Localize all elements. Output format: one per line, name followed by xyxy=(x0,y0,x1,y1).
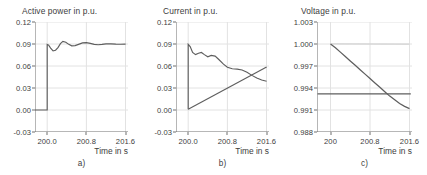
panel-a-gridlines xyxy=(35,22,128,132)
panel-a-curve-active-power xyxy=(35,41,126,110)
panel-b-xtick-label: 200.8 xyxy=(218,137,237,146)
panel-b-current: Current in p.u. xyxy=(141,0,283,175)
panel-a-xtick-mark xyxy=(86,132,87,135)
panel-c-caption: c) xyxy=(361,159,368,168)
panel-a-ytick-label: 0.03 xyxy=(16,84,35,93)
panel-b-xtick-mark xyxy=(266,132,267,135)
panel-c-voltage: Voltage in p.u. xyxy=(283,0,425,175)
panel-c-ytick-label: 1.000 xyxy=(294,40,317,49)
panel-c-plot-area: 1.003 1.000 0.997 0.994 0.991 0.988 200 … xyxy=(317,22,412,132)
panel-a-caption: a) xyxy=(78,159,85,168)
panel-c-axes xyxy=(317,22,412,132)
panel-b-xtick-label: 201.6 xyxy=(257,137,276,146)
panel-b-plot-area: 0.12 0.09 0.06 0.03 0.00 -0.03 200.0 200… xyxy=(176,22,269,132)
panel-c-xtick-label: 200 xyxy=(324,137,337,146)
panel-a-svg xyxy=(35,22,128,132)
panel-a-ytick-label: 0.12 xyxy=(16,18,35,27)
panel-c-svg xyxy=(317,22,412,132)
panel-b-ytick-label: 0.06 xyxy=(157,62,176,71)
figure-three-panel-plot: Active power in p.u. xyxy=(0,0,427,175)
panel-a-xtick-label: 200.8 xyxy=(77,137,96,146)
panel-a-ytick-label: 0.09 xyxy=(16,40,35,49)
panel-c-ytick-label: 0.988 xyxy=(294,128,317,137)
panel-a-ytick-label: -0.03 xyxy=(13,128,35,137)
panel-c-ytick-label: 0.997 xyxy=(294,62,317,71)
panel-c-ytick-label: 0.991 xyxy=(294,106,317,115)
panel-c-ytick-label: 0.994 xyxy=(294,84,317,93)
panel-b-ytick-label: 0.09 xyxy=(157,40,176,49)
panel-b-xaxis-label: Time in s xyxy=(235,146,269,156)
panel-a-ytick-label: 0.06 xyxy=(16,62,35,71)
panel-b-ytick-label: 0.03 xyxy=(157,84,176,93)
panel-a-ytick-label: 0.00 xyxy=(16,106,35,115)
panel-b-ytick-label: 0.12 xyxy=(157,18,176,27)
panel-c-title: Voltage in p.u. xyxy=(301,6,356,16)
panel-b-ytick-label: 0.00 xyxy=(157,106,176,115)
panel-a-xtick-label: 201.6 xyxy=(116,137,135,146)
panel-a-xtick-mark xyxy=(47,132,48,135)
panel-b-caption: b) xyxy=(219,159,226,168)
panel-c-xtick-mark xyxy=(330,132,331,135)
panel-b-ytick-label: -0.03 xyxy=(154,128,176,137)
panel-c-xtick-mark xyxy=(409,132,410,135)
panel-c-xtick-label: 200.8 xyxy=(360,137,379,146)
panel-c-xtick-mark xyxy=(370,132,371,135)
panel-a-xtick-mark xyxy=(125,132,126,135)
panel-b-title: Current in p.u. xyxy=(163,6,218,16)
panel-b-svg xyxy=(176,22,269,132)
panel-c-xaxis-label: Time in s xyxy=(378,146,412,156)
panel-c-gridlines xyxy=(317,22,412,132)
panel-a-axes xyxy=(35,22,128,132)
panel-a-active-power: Active power in p.u. xyxy=(0,0,142,175)
panel-a-xtick-label: 200.0 xyxy=(38,137,57,146)
panel-c-ytick-label: 1.003 xyxy=(294,18,317,27)
panel-b-xtick-mark xyxy=(227,132,228,135)
panel-a-title: Active power in p.u. xyxy=(22,6,97,16)
panel-a-plot-area: 0.12 0.09 0.06 0.03 0.00 -0.03 200.0 200… xyxy=(35,22,128,132)
panel-c-xtick-label: 201.6 xyxy=(400,137,419,146)
panel-b-xtick-label: 200.0 xyxy=(179,137,198,146)
panel-a-xaxis-label: Time in s xyxy=(94,146,128,156)
panel-b-xtick-mark xyxy=(188,132,189,135)
